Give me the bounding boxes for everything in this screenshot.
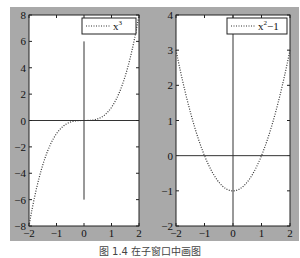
subplot-1-xtick-label: −1 xyxy=(51,227,63,239)
subplot-1-ytick-label: 4 xyxy=(21,62,27,74)
subplot-2-ytick-label: 0 xyxy=(168,150,174,162)
subplot-1-ytick-label: −8 xyxy=(14,220,26,232)
subplot-2-xtick-label: 2 xyxy=(287,227,293,239)
subplot-2-ytick-label: 2 xyxy=(168,79,174,91)
subplot-1-xtick-label: 2 xyxy=(136,227,142,239)
subplot-2-xtick-label: 1 xyxy=(259,227,265,239)
subplot-1-ytick-label: −4 xyxy=(14,167,26,179)
subplot-1-ytick-label: 2 xyxy=(21,88,27,100)
figure-caption: 图 1.4 在子窗口中画图 xyxy=(0,243,300,258)
subplot-2-xtick-label: −1 xyxy=(199,227,211,239)
subplot-2-ytick-label: −2 xyxy=(161,220,173,232)
subplot-1-xtick-label: 0 xyxy=(81,227,87,239)
subplot-1-ytick-label: 0 xyxy=(21,115,27,127)
subplot-2-xtick-label: 0 xyxy=(230,227,236,239)
subplot-2-ytick-label: 4 xyxy=(168,9,174,21)
subplot-1-ytick-label: 8 xyxy=(21,9,27,21)
subplot-1-xtick-label: 1 xyxy=(109,227,115,239)
subplot-2-legend-label: x2−1 xyxy=(258,19,279,32)
subplot-2-ytick-label: 1 xyxy=(168,115,174,127)
subplot-1-ytick-label: −2 xyxy=(14,141,26,153)
subplot-1-ytick-label: −6 xyxy=(14,194,26,206)
subplot-2-ytick-label: 3 xyxy=(168,44,174,56)
subplot-1-ytick-label: 6 xyxy=(21,35,27,47)
subplot-2-ytick-label: −1 xyxy=(161,185,173,197)
